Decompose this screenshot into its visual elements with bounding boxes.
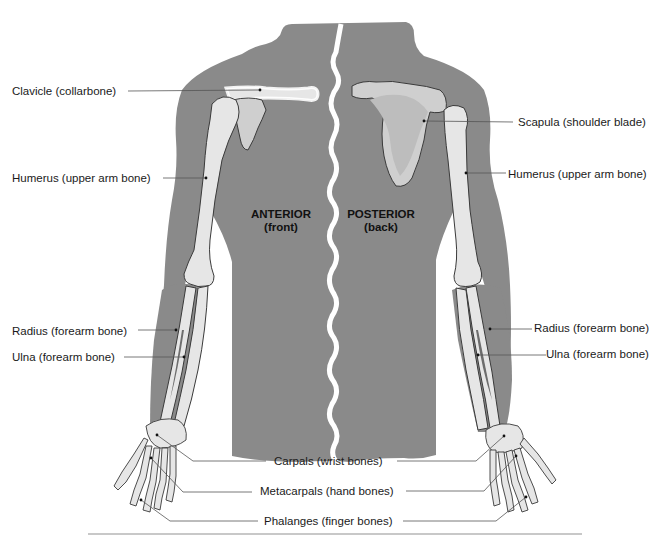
left-hand-bones (114, 419, 186, 512)
right-hand-bones (486, 424, 556, 512)
bottom-rule (88, 533, 582, 535)
posterior-side-label: POSTERIOR (back) (344, 208, 418, 234)
label-carpals: Carpals (wrist bones) (274, 455, 383, 468)
label-humerus-right: Humerus (upper arm bone) (508, 168, 647, 181)
label-radius-left: Radius (forearm bone) (12, 325, 127, 338)
label-scapula-right: Scapula (shoulder blade) (518, 116, 646, 129)
label-ulna-right: Ulna (forearm bone) (546, 348, 649, 361)
label-clavicle-left: Clavicle (collarbone) (12, 85, 116, 98)
anterior-side-label: ANTERIOR (front) (248, 208, 314, 234)
label-phalanges: Phalanges (finger bones) (264, 515, 393, 528)
label-metacarpals: Metacarpals (hand bones) (260, 485, 394, 498)
posterior-title: POSTERIOR (344, 208, 418, 221)
posterior-subtitle: (back) (344, 221, 418, 234)
label-humerus-left: Humerus (upper arm bone) (12, 172, 151, 185)
arm-skeleton-diagram: ANTERIOR (front) POSTERIOR (back) Clavic… (0, 0, 666, 546)
label-radius-right: Radius (forearm bone) (534, 322, 649, 335)
anterior-title: ANTERIOR (248, 208, 314, 221)
label-ulna-left: Ulna (forearm bone) (12, 351, 115, 364)
anterior-subtitle: (front) (248, 221, 314, 234)
